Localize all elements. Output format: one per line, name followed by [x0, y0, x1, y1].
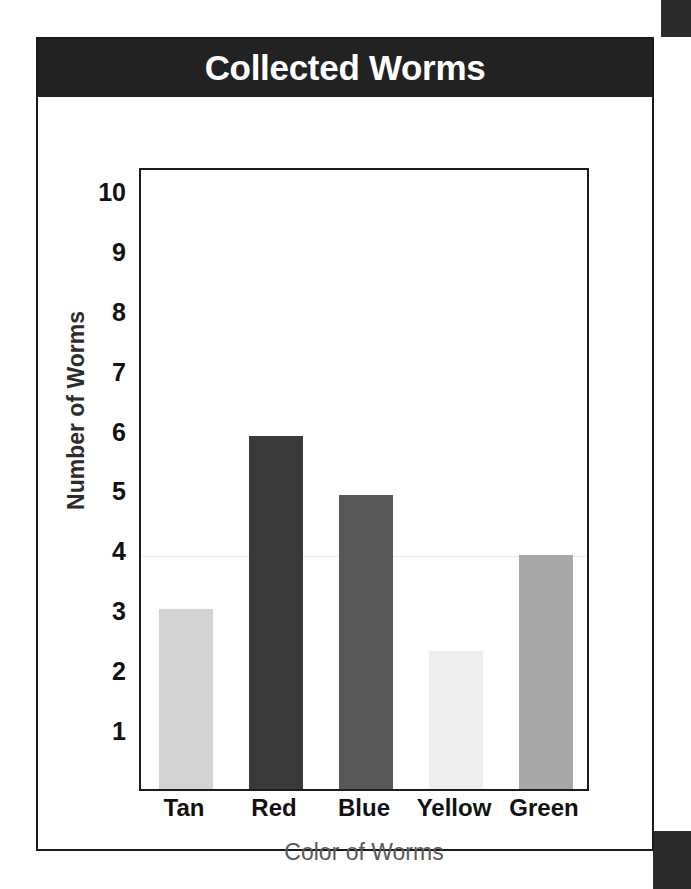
plot-inner [141, 170, 587, 789]
bar-green [519, 555, 573, 789]
page-frame: Collected Worms Number of Worms 12345678… [36, 37, 654, 851]
x-tick-label-red: Red [251, 794, 296, 822]
x-tick-label-blue: Blue [338, 794, 390, 822]
bar-chart: Number of Worms 12345678910 TanRedBlueYe… [38, 97, 652, 849]
y-tick-label: 7 [84, 357, 126, 386]
y-tick-label: 4 [84, 537, 126, 566]
bar-tan [159, 609, 213, 789]
bar-red [249, 436, 303, 789]
y-tick-label: 9 [84, 237, 126, 266]
page-title: Collected Worms [205, 48, 486, 88]
x-tick-label-tan: Tan [164, 794, 205, 822]
y-tick-label: 6 [84, 417, 126, 446]
y-tick-label: 1 [84, 717, 126, 746]
y-tick-label: 8 [84, 297, 126, 326]
y-tick-label: 5 [84, 477, 126, 506]
y-axis-tick-labels: 12345678910 [84, 168, 126, 791]
x-axis-title: Color of Worms [139, 839, 589, 866]
plot-area [139, 168, 589, 791]
x-axis-tick-labels: TanRedBlueYellowGreen [139, 794, 589, 828]
y-tick-label: 10 [84, 177, 126, 206]
title-banner: Collected Worms [38, 39, 652, 97]
y-tick-label: 3 [84, 597, 126, 626]
bar-blue [339, 495, 393, 789]
scan-edge-block-top-right [661, 0, 691, 37]
x-tick-label-green: Green [509, 794, 578, 822]
scan-edge-block-bottom-right [653, 831, 691, 889]
bar-yellow [429, 651, 483, 789]
y-tick-label: 2 [84, 657, 126, 686]
x-tick-label-yellow: Yellow [417, 794, 492, 822]
